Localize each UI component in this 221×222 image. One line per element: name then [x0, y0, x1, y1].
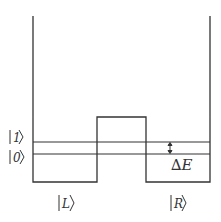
double-arrow-icon	[168, 143, 172, 154]
ket-L-label: L	[59, 195, 74, 211]
ket-1-label: 1	[10, 130, 23, 145]
ket-R-label: R	[171, 195, 186, 211]
ket-0-label: 0	[10, 150, 24, 165]
delta-e-label: ∆E	[171, 156, 192, 174]
svg-text:L: L	[61, 197, 70, 211]
svg-text:0: 0	[13, 151, 21, 165]
svg-text:R: R	[173, 197, 183, 211]
double-well-diagram: 1 0 ∆E L R	[0, 0, 221, 222]
